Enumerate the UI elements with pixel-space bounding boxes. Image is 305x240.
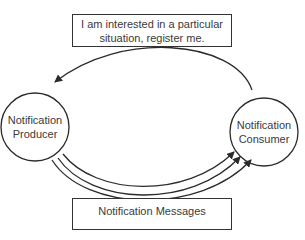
- notification-messages-label: Notification Messages: [73, 204, 231, 218]
- register-request-line1: I am interested in a particular: [73, 17, 231, 31]
- producer-label-line2: Producer: [1, 127, 69, 141]
- register-request-box: I am interested in a particular situatio…: [72, 14, 232, 47]
- producer-label-line1: Notification: [1, 113, 69, 127]
- notification-arrow-1: [63, 152, 234, 186]
- consumer-label: Notification Consumer: [230, 118, 298, 146]
- register-arrow: [55, 47, 252, 90]
- consumer-label-line2: Consumer: [230, 132, 298, 146]
- producer-label: Notification Producer: [1, 113, 69, 141]
- notification-messages-box: Notification Messages: [72, 198, 232, 230]
- consumer-label-line1: Notification: [230, 118, 298, 132]
- notification-arrow-2: [58, 157, 240, 195]
- register-request-line2: situation, register me.: [73, 31, 231, 45]
